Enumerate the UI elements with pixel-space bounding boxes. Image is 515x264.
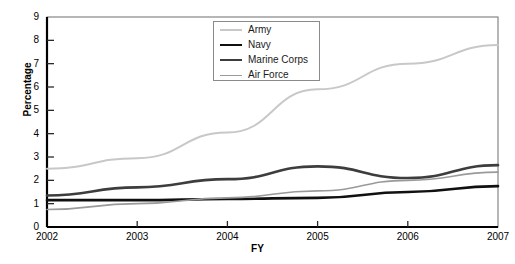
legend-swatch-line-icon (220, 44, 242, 46)
legend-item: Navy (220, 38, 319, 52)
legend-item-label: Marine Corps (248, 54, 308, 66)
legend: ArmyNavyMarine CorpsAir Force (213, 21, 320, 81)
legend-item: Army (220, 23, 319, 37)
legend-item: Air Force (220, 68, 319, 82)
legend-swatch-line-icon (220, 59, 242, 61)
legend-item: Marine Corps (220, 53, 319, 67)
legend-swatch-line-icon (220, 75, 242, 76)
legend-item-label: Air Force (248, 69, 289, 81)
legend-item-label: Navy (248, 39, 271, 51)
legend-swatch-line-icon (220, 29, 242, 31)
legend-item-label: Army (248, 24, 271, 36)
line-chart: Percentage FY 0123456789 200220032004200… (0, 0, 515, 264)
